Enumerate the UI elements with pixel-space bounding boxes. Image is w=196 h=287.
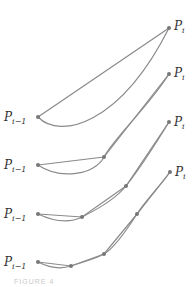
panel-4-chords: Pi−1Pi [3,165,186,271]
panel-1-chord: Pi−1Pi [3,19,185,126]
start-point [36,115,40,119]
chord-polyline [38,122,169,217]
panel-3-chords: Pi−1Pi [3,115,185,223]
intermediate-point [135,212,139,216]
end-point [167,72,171,76]
intermediate-point [69,264,73,268]
end-point [168,170,172,174]
curve-arc [38,122,169,221]
label-p-i: Pi [174,165,186,181]
start-point [36,163,40,167]
intermediate-point [80,215,84,219]
start-point [36,212,40,216]
curve-approximation-diagram: Pi−1PiPi−1PiPi−1PiPi−1PiFIGURE 4 [0,0,196,287]
intermediate-point [124,184,128,188]
figure-caption: FIGURE 4 [14,278,54,285]
start-point [36,260,40,264]
intermediate-point [102,155,106,159]
intermediate-point [102,252,106,256]
end-point [167,26,171,30]
label-p-i: Pi [173,19,185,35]
curve-arc [38,28,169,126]
label-p-i: Pi [173,115,185,131]
label-p-i-minus-1: Pi−1 [3,207,26,223]
end-point [167,120,171,124]
chord-polyline [38,28,169,117]
panel-2-chords: Pi−1Pi [3,66,185,174]
label-p-i: Pi [173,66,185,82]
label-p-i-minus-1: Pi−1 [3,255,26,271]
label-p-i-minus-1: Pi−1 [3,110,26,126]
chord-polyline [38,172,170,266]
label-p-i-minus-1: Pi−1 [3,158,26,174]
